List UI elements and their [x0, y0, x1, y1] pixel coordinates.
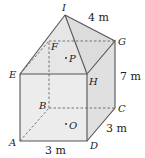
dimension-height: 7 m — [120, 70, 141, 83]
point-P — [65, 57, 67, 59]
label-B: B — [38, 100, 46, 111]
label-C: C — [118, 103, 126, 114]
label-I: I — [61, 2, 67, 13]
label-A: A — [8, 137, 16, 148]
point-O — [65, 123, 67, 125]
dimension-width: 3 m — [45, 144, 66, 157]
composite-solid-diagram: I G F E H B C A D P O 4 m 7 m 3 m 3 m — [0, 0, 145, 158]
label-F: F — [50, 41, 59, 52]
label-D: D — [89, 140, 98, 151]
dimension-IG: 4 m — [88, 11, 109, 24]
label-H: H — [88, 76, 98, 87]
label-P: P — [68, 53, 76, 64]
dimension-depth: 3 m — [106, 122, 127, 135]
label-O: O — [69, 120, 77, 131]
label-G: G — [118, 36, 126, 47]
label-E: E — [8, 69, 17, 80]
